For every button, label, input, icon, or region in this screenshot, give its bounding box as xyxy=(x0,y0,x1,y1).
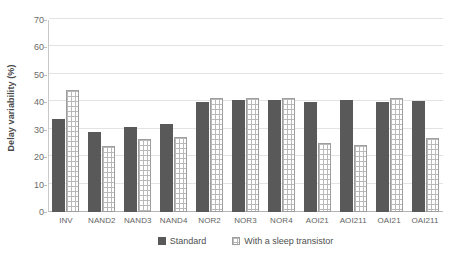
y-axis-title-text: Delay variability (%) xyxy=(6,64,16,151)
y-tick-mark xyxy=(44,20,47,21)
bar-group xyxy=(156,20,192,212)
x-tick-label-nor4: NOR4 xyxy=(263,214,299,230)
bar-nor3-standard xyxy=(232,100,245,212)
bar-group xyxy=(263,20,299,212)
y-tick-mark xyxy=(44,212,47,213)
chart-legend: StandardWith a sleep transistor xyxy=(48,233,443,249)
bar-group xyxy=(192,20,228,212)
y-tick-label: 10 xyxy=(20,180,44,190)
bar-nand2-sleep xyxy=(102,146,115,212)
y-tick-mark xyxy=(44,185,47,186)
bar-aoi21-standard xyxy=(304,102,317,212)
bar-group xyxy=(407,20,443,212)
x-tick-label-aoi211: AOI211 xyxy=(335,214,371,230)
x-tick-label-nand3: NAND3 xyxy=(120,214,156,230)
bar-oai21-sleep xyxy=(390,98,403,212)
y-tick-mark xyxy=(44,102,47,103)
y-tick-label: 70 xyxy=(20,15,44,25)
y-tick-mark xyxy=(44,130,47,131)
bar-series-container xyxy=(48,20,443,212)
bar-nand3-standard xyxy=(124,127,137,212)
x-tick-label-nor3: NOR3 xyxy=(228,214,264,230)
x-tick-label-aoi21: AOI21 xyxy=(299,214,335,230)
bar-nor3-sleep xyxy=(246,98,259,212)
y-tick-label: 50 xyxy=(20,70,44,80)
y-tick-label: 60 xyxy=(20,42,44,52)
bar-group xyxy=(228,20,264,212)
legend-swatch-icon xyxy=(232,237,240,245)
y-tick-label: 30 xyxy=(20,125,44,135)
legend-label: With a sleep transistor xyxy=(244,236,333,246)
x-tick-label-inv: INV xyxy=(48,214,84,230)
bar-oai21-standard xyxy=(376,102,389,212)
x-tick-label-nor2: NOR2 xyxy=(192,214,228,230)
bar-aoi21-sleep xyxy=(318,143,331,212)
bar-chart-figure: Delay variability (%) 010203040506070 IN… xyxy=(0,0,473,261)
bar-oai211-standard xyxy=(412,101,425,212)
legend-item-standard[interactable]: Standard xyxy=(158,236,207,246)
gridline-70 xyxy=(49,18,443,19)
x-tick-label-oai21: OAI21 xyxy=(371,214,407,230)
bar-group xyxy=(84,20,120,212)
x-axis-labels: INVNAND2NAND3NAND4NOR2NOR3NOR4AOI21AOI21… xyxy=(48,214,443,230)
legend-label: Standard xyxy=(170,236,207,246)
bar-nand3-sleep xyxy=(138,139,151,212)
bar-nand4-standard xyxy=(160,124,173,212)
bar-aoi211-standard xyxy=(340,100,353,212)
bar-nand4-sleep xyxy=(174,137,187,212)
bar-inv-sleep xyxy=(66,90,79,212)
bar-group xyxy=(299,20,335,212)
y-tick-mark xyxy=(44,157,47,158)
bar-aoi211-sleep xyxy=(354,145,367,212)
bar-nand2-standard xyxy=(88,132,101,212)
y-tick-label: 40 xyxy=(20,97,44,107)
bar-oai211-sleep xyxy=(426,138,439,212)
bar-inv-standard xyxy=(52,119,65,212)
legend-item-sleep-transistor[interactable]: With a sleep transistor xyxy=(232,236,333,246)
y-tick-mark xyxy=(44,75,47,76)
bar-nor4-sleep xyxy=(282,98,295,212)
y-tick-label: 20 xyxy=(20,152,44,162)
y-axis-ticks: 010203040506070 xyxy=(18,20,44,212)
bar-group xyxy=(371,20,407,212)
bar-group xyxy=(335,20,371,212)
bar-nor2-sleep xyxy=(210,98,223,212)
bar-nor4-standard xyxy=(268,100,281,212)
bar-nor2-standard xyxy=(196,102,209,212)
bar-group xyxy=(120,20,156,212)
x-tick-label-oai211: OAI211 xyxy=(407,214,443,230)
x-tick-label-nand2: NAND2 xyxy=(84,214,120,230)
legend-swatch-icon xyxy=(158,237,166,245)
y-tick-label: 0 xyxy=(20,207,44,217)
bar-group xyxy=(48,20,84,212)
x-tick-label-nand4: NAND4 xyxy=(156,214,192,230)
y-tick-mark xyxy=(44,47,47,48)
